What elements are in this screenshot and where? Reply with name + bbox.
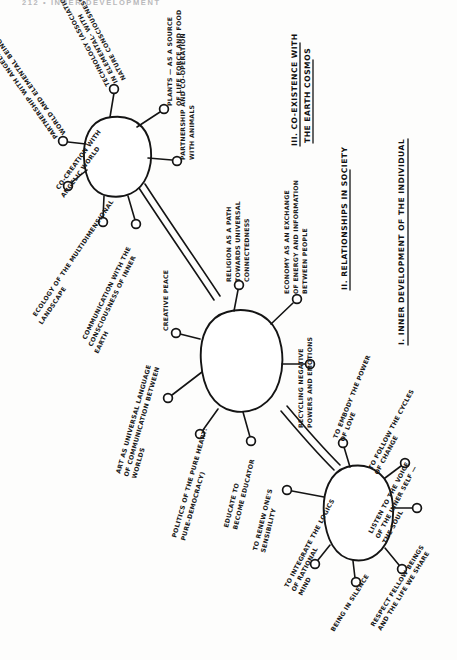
heading-3-line1: III. CO-EXISTENCE WITH: [290, 33, 299, 146]
label-line: BETWEEN PEOPLE: [301, 228, 308, 294]
label-line: RESPECT FELLOW BEINGS: [369, 544, 425, 628]
label-line: TO FOLLOW THE CYCLES: [367, 388, 415, 471]
label-religion: RELIGION AS A PATH TOWARDS UNIVERSAL CON…: [225, 201, 250, 282]
heading-society: II. RELATIONSHIPS IN SOCIETY: [340, 147, 350, 291]
label-line: PARTNERSHIP AND CO-OPERATION: [179, 33, 186, 160]
label-inner-earth: COMMUNICATION WITH THE CONSCIOUSNESS OF …: [81, 245, 137, 354]
label-line: CREATIVE PEACE: [162, 270, 169, 331]
node-society[interactable]: [201, 310, 283, 412]
label-politics-pure-heart: POLITICS OF THE PURE HEART: PURE-DEMOCRA…: [170, 427, 208, 541]
branch-endpoint-educate[interactable]: [247, 437, 256, 446]
branch-endpoint-partnership-angelic[interactable]: [59, 137, 68, 146]
label-line: WITH ANIMALS: [188, 105, 195, 160]
label-line: ECONOMY AS AN EXCHANGE: [283, 190, 290, 294]
label-being-silence: BEING IN SILENCE: [329, 573, 370, 633]
label-line: WORLD AND ELEMENTAL BEINGS: [0, 34, 67, 137]
label-line: OF ENERGY AND INFORMATION: [292, 180, 299, 294]
heading-2-line1: II. RELATIONSHIPS IN SOCIETY: [340, 147, 349, 291]
label-renew-sensibility: TO RENEW ONE'S SENSIBILITY: [251, 488, 277, 553]
label-line: POWERS AND EMOTIONS: [306, 337, 313, 428]
label-line: RECYCLING NEGATIVE: [297, 348, 304, 428]
heading-individual: I. INNER DEVELOPMENT OF THE INDIVIDUAL: [397, 139, 408, 345]
branch-endpoint-art-language[interactable]: [164, 394, 173, 403]
label-line: COMMUNICATION WITH THE: [81, 245, 132, 340]
branch-endpoint-renew-sensibility[interactable]: [283, 486, 292, 495]
label-creative-peace: CREATIVE PEACE: [162, 270, 169, 331]
label-art-language: ART AS UNIVERSAL LANGUAGE OF COMMUNICATI…: [114, 364, 160, 479]
label-line: TO EMBODY THE POWER: [331, 354, 371, 440]
label-line: AND THE LIFE WE SHARE: [376, 550, 431, 632]
heading-3-line2: THE EARTH COSMOS: [303, 48, 312, 143]
branch-endpoint-creative-peace[interactable]: [172, 329, 181, 338]
label-line: RELIGION AS A PATH: [225, 206, 232, 282]
label-line: TOWARDS UNIVERSAL: [234, 201, 241, 282]
scanned-book-page: 212 • INNER DEVELOPMENT: [0, 0, 457, 660]
label-respect-fellow: RESPECT FELLOW BEINGS AND THE LIFE WE SH…: [369, 544, 431, 632]
label-animals: PARTNERSHIP AND CO-OPERATION WITH ANIMAL…: [179, 33, 195, 160]
branch-endpoint-technology-nature[interactable]: [110, 85, 119, 94]
label-line: CONSCIOUSNESS OF INNER: [87, 254, 137, 347]
label-line: PLANTS — AS A SOURCE: [166, 17, 173, 106]
label-educate: EDUCATE TO BECOME EDUCATOR: [222, 458, 255, 530]
label-technology-nature: TECHNOLOGY (ASSOCIATION) IN ELEMENTAL- W…: [54, 0, 127, 88]
label-line: TO INTEGRATE THE LOGICS: [283, 497, 336, 588]
label-line: CONNECTEDNESS: [243, 218, 250, 282]
label-partnership-angelic: PARTNERSHIP WITH ANGELIC WORLD AND ELEME…: [0, 34, 67, 141]
mind-map-canvas: III. CO-EXISTENCE WITH THE EARTH COSMOS …: [0, 0, 457, 660]
label-recycling: RECYCLING NEGATIVE POWERS AND EMOTIONS: [297, 337, 313, 428]
label-embody-love: TO EMBODY THE POWER OF LOVE: [331, 354, 371, 443]
heading-earth-cosmos: III. CO-EXISTENCE WITH THE EARTH COSMOS: [290, 33, 313, 146]
label-economy: ECONOMY AS AN EXCHANGE OF ENERGY AND INF…: [283, 180, 308, 294]
label-line: BEING IN SILENCE: [329, 573, 370, 633]
heading-1-line1: I. INNER DEVELOPMENT OF THE INDIVIDUAL: [397, 139, 406, 345]
branch-endpoint-listen-soul[interactable]: [413, 504, 422, 513]
branch-endpoint-economy[interactable]: [293, 295, 302, 304]
branch-endpoint-inner-earth[interactable]: [132, 220, 141, 229]
